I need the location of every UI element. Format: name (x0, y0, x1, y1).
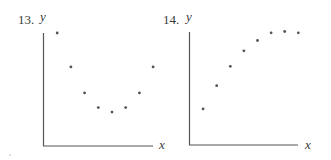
data-point (256, 39, 259, 42)
data-point (283, 30, 286, 33)
data-point (229, 65, 232, 68)
data-point (124, 106, 127, 109)
data-point (70, 66, 73, 69)
data-point (138, 92, 141, 95)
data-point (83, 92, 86, 95)
data-point (97, 106, 100, 109)
data-point (270, 31, 273, 34)
plot-14-points (202, 30, 300, 110)
plot-13-points (56, 32, 155, 114)
plot-13 (43, 32, 155, 146)
data-point (111, 111, 114, 114)
data-point (297, 31, 300, 34)
plot-14 (189, 30, 300, 145)
data-point (243, 49, 246, 52)
data-point (202, 108, 205, 111)
data-point (56, 32, 59, 35)
plots-canvas (0, 0, 331, 160)
data-point (215, 84, 218, 87)
stray-mark (9, 154, 10, 155)
data-point (152, 66, 155, 69)
